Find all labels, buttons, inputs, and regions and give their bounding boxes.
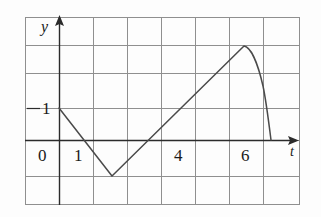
- graph-figure: y t 1 0 1 4 6: [0, 0, 321, 217]
- plotted-curve: [59, 46, 271, 176]
- x-tick-label-6: 6: [241, 147, 250, 164]
- x-tick-label-4: 4: [174, 147, 183, 164]
- y-axis-label: y: [41, 19, 48, 35]
- y-tick-label-1: 1: [42, 100, 51, 117]
- x-tick-label-0: 0: [38, 147, 47, 164]
- x-tick-label-1: 1: [74, 147, 83, 164]
- t-axis-label: t: [290, 145, 294, 159]
- grid-horizontal-lines: [25, 18, 300, 205]
